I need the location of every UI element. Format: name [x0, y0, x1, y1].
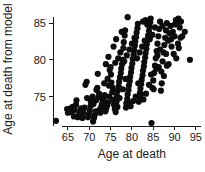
- plot-canvas: 75808565707580859095Age at deathAge at d…: [0, 0, 205, 172]
- data-point: [116, 95, 122, 101]
- data-point: [155, 33, 161, 39]
- data-point: [131, 35, 137, 41]
- data-point: [154, 41, 160, 47]
- data-point: [113, 36, 119, 42]
- data-point: [182, 29, 188, 35]
- y-tick-label: 75: [34, 91, 46, 103]
- data-point: [142, 17, 148, 23]
- data-point: [152, 24, 158, 30]
- data-point: [99, 93, 105, 99]
- data-point: [177, 24, 183, 30]
- data-point: [163, 51, 169, 57]
- data-point: [84, 79, 90, 85]
- data-point: [119, 29, 125, 35]
- data-point: [168, 43, 174, 49]
- data-point: [164, 63, 170, 69]
- data-point: [120, 86, 126, 92]
- data-point: [103, 61, 109, 67]
- data-point: [148, 71, 154, 77]
- x-tick-label: 80: [126, 131, 138, 143]
- data-point: [151, 86, 157, 92]
- x-tick-label: 85: [147, 131, 159, 143]
- data-point: [80, 110, 86, 116]
- data-point: [173, 55, 179, 61]
- data-point: [110, 43, 116, 49]
- data-point: [177, 35, 183, 41]
- data-point: [148, 120, 154, 126]
- data-point: [158, 88, 164, 94]
- data-point: [93, 97, 99, 103]
- data-point: [136, 49, 142, 55]
- data-point: [159, 80, 165, 86]
- data-point: [140, 96, 146, 102]
- data-point: [178, 18, 184, 24]
- x-tick-label: 75: [104, 131, 116, 143]
- data-points-group: [53, 14, 193, 126]
- data-point: [149, 32, 155, 38]
- data-point: [143, 91, 149, 97]
- data-point: [108, 71, 114, 77]
- scatter-plot-figure: 75808565707580859095Age at deathAge at d…: [0, 0, 205, 172]
- data-point: [121, 58, 127, 64]
- data-point: [95, 71, 101, 77]
- data-point: [157, 46, 163, 52]
- x-tick-label: 70: [83, 131, 95, 143]
- y-axis-title: Age at death from model: [1, 3, 15, 134]
- data-point: [161, 73, 167, 79]
- data-point: [187, 57, 193, 63]
- data-point: [106, 93, 112, 99]
- data-point: [176, 45, 182, 51]
- y-tick-label: 80: [34, 54, 46, 66]
- data-point: [114, 104, 120, 110]
- data-point: [117, 49, 123, 55]
- data-point: [73, 97, 79, 103]
- x-axis-title: Age at death: [98, 147, 166, 161]
- data-point: [139, 43, 145, 49]
- data-point: [171, 33, 177, 39]
- data-point: [160, 23, 166, 29]
- data-point: [154, 52, 160, 58]
- data-point: [124, 52, 130, 58]
- data-point: [105, 54, 111, 60]
- data-point: [121, 39, 127, 45]
- y-tick-label: 85: [34, 17, 46, 29]
- data-point: [134, 55, 140, 61]
- data-point: [53, 118, 59, 124]
- data-point: [94, 85, 100, 91]
- data-point: [115, 55, 121, 61]
- data-point: [125, 14, 131, 20]
- x-tick-label: 65: [62, 131, 74, 143]
- data-point: [135, 80, 141, 86]
- data-point: [126, 46, 132, 52]
- data-point: [129, 41, 135, 47]
- x-tick-label: 95: [190, 131, 202, 143]
- data-point: [122, 76, 128, 82]
- data-point: [110, 85, 116, 91]
- x-tick-label: 90: [168, 131, 180, 143]
- data-point: [146, 82, 152, 88]
